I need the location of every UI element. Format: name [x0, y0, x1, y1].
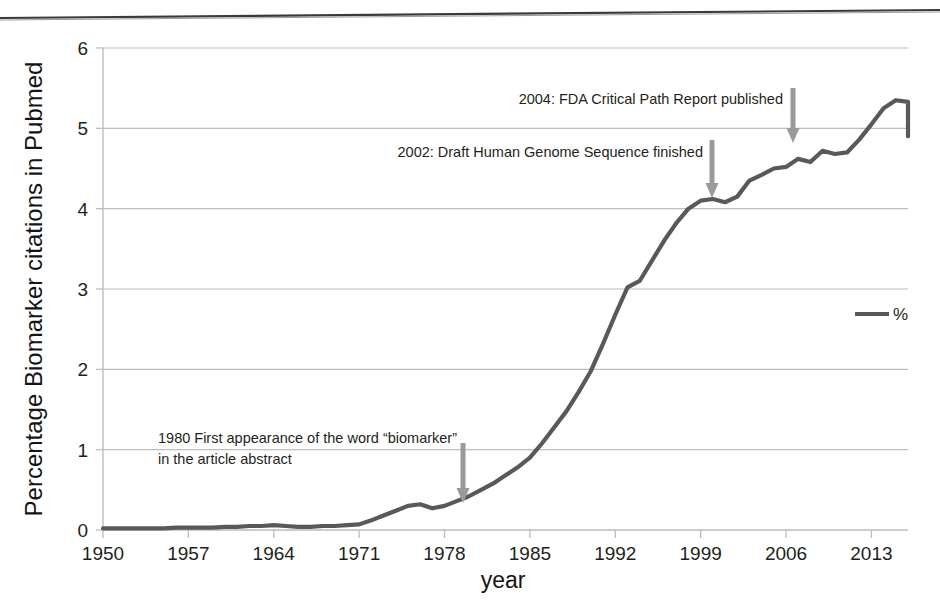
x-axis-title: year	[481, 567, 526, 593]
annotation-text-genome-2002: 2002: Draft Human Genome Sequence finish…	[398, 144, 704, 160]
y-tick-label-5: 5	[77, 118, 88, 139]
annotation-text-biomarker-1980: 1980 First appearance of the word “bioma…	[158, 430, 457, 446]
annotation-arrow-fda-2004	[787, 88, 800, 143]
x-tick-label-1985: 1985	[509, 543, 551, 564]
x-tick-label-1964: 1964	[253, 543, 296, 564]
y-axis-ticks	[96, 48, 103, 530]
annotation-text-biomarker-1980: in the article abstract	[158, 451, 292, 467]
annotation-arrow-biomarker-1980	[457, 443, 470, 503]
y-axis-title: Percentage Biomarker citations in Pubmed	[20, 62, 47, 517]
x-axis-ticks	[103, 530, 871, 538]
annotation-arrow-genome-2002	[706, 140, 719, 198]
y-tick-label-6: 6	[77, 38, 88, 59]
x-tick-label-1992: 1992	[594, 543, 636, 564]
x-tick-label-1999: 1999	[680, 543, 722, 564]
annotation-text-fda-2004: 2004: FDA Critical Path Report published	[519, 91, 783, 107]
y-tick-label-4: 4	[77, 199, 88, 220]
x-tick-label-1971: 1971	[338, 543, 380, 564]
x-tick-label-2013: 2013	[850, 543, 892, 564]
annotations-layer: 1980 First appearance of the word “bioma…	[158, 88, 800, 503]
chart-legend: %	[855, 305, 908, 324]
chart-page: 0123456 19501957196419711978198519921999…	[0, 0, 940, 613]
x-tick-label-2006: 2006	[765, 543, 807, 564]
x-axis-tick-labels: 1950195719641971197819851992199920062013	[82, 543, 893, 564]
x-tick-label-1978: 1978	[423, 543, 465, 564]
y-tick-label-1: 1	[77, 440, 88, 461]
y-axis-tick-labels: 0123456	[77, 38, 88, 541]
x-tick-label-1957: 1957	[167, 543, 209, 564]
y-tick-label-3: 3	[77, 279, 88, 300]
y-tick-label-0: 0	[77, 520, 88, 541]
biomarker-citations-line-chart: 0123456 19501957196419711978198519921999…	[0, 0, 940, 613]
y-tick-label-2: 2	[77, 359, 88, 380]
x-tick-label-1950: 1950	[82, 543, 124, 564]
legend-label-percent: %	[893, 305, 908, 324]
